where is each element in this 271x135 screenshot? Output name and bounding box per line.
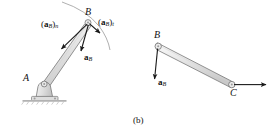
link-BC	[157, 43, 232, 88]
vector-subscript-B-right: B	[163, 81, 167, 87]
vector-label-normal-acceleration-B: (aB)n	[41, 20, 58, 29]
vector-label-resultant-acceleration-B: aB	[84, 53, 92, 62]
joint-B-right	[155, 43, 161, 49]
point-label-B-right: B	[154, 30, 160, 40]
vector-subscript-B-resultant: B	[89, 56, 93, 62]
vector-label-acceleration-B-right: aB	[158, 78, 166, 87]
acceleration-vector-B-right	[155, 49, 158, 79]
point-label-C: C	[230, 88, 237, 98]
vector-label-tangential-acceleration-B: (aB)t	[98, 18, 114, 27]
vector-subscript-t: t	[112, 21, 114, 27]
figure-caption: (b)	[133, 116, 144, 125]
point-label-A: A	[23, 73, 29, 83]
vector-subscript-n: n	[55, 23, 58, 29]
figure-container: A B (aB)n (aB)t aB B C aB (b)	[0, 0, 271, 135]
pin-support-at-A	[22, 81, 67, 105]
point-label-B-left: B	[85, 7, 91, 17]
